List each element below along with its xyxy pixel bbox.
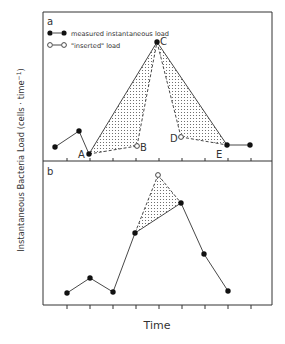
data-point-a (86, 151, 91, 156)
inserted-data-point (156, 173, 161, 178)
point-label-c: C (160, 36, 167, 47)
data-point-b (135, 144, 140, 149)
data-point (76, 128, 81, 133)
legend-open-marker-icon (48, 43, 53, 48)
data-point (64, 290, 69, 295)
data-point (225, 288, 230, 293)
x-axis-ticks (67, 305, 251, 309)
data-point (247, 142, 252, 147)
x-axis-label: Time (143, 319, 171, 332)
point-label-e: E (216, 149, 222, 160)
panel-b-shaded-region (135, 175, 181, 233)
legend-inserted-label: "inserted" load (71, 42, 120, 50)
y-axis-label: Instantaneous Bacteria Load (cells · tim… (15, 68, 26, 252)
data-point (52, 144, 57, 149)
data-point-d (179, 135, 184, 140)
legend-measured-label: measured instantaneous load (71, 30, 169, 38)
data-point (87, 275, 92, 280)
legend-filled-marker-icon (61, 30, 66, 35)
data-point (178, 200, 183, 205)
legend-filled-marker-icon (47, 30, 52, 35)
figure-canvas: a b measured instantaneous load "inserte… (0, 0, 285, 344)
panel-b-lines (67, 175, 228, 293)
point-label-d: D (170, 133, 178, 144)
legend: measured instantaneous load "inserted" l… (47, 30, 169, 50)
data-point-e (224, 142, 229, 147)
point-label-b: B (140, 142, 147, 153)
data-point-c (154, 39, 159, 44)
data-point (110, 289, 115, 294)
panel-b-label: b (47, 166, 53, 177)
data-point (132, 230, 137, 235)
panel-b-points (64, 173, 230, 296)
legend-open-marker-icon (62, 43, 67, 48)
data-point (201, 251, 206, 256)
panel-a-label: a (47, 16, 53, 27)
point-label-a: A (78, 149, 85, 160)
